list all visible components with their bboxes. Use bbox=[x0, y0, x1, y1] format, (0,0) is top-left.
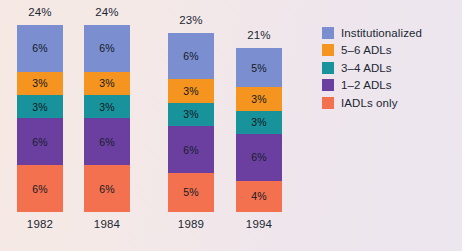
legend-item[interactable]: 1–2 ADLs bbox=[322, 77, 458, 95]
bar-segment-label: 6% bbox=[32, 42, 47, 54]
bar-segment: 3% bbox=[84, 95, 130, 118]
bar-segment-label: 6% bbox=[32, 183, 47, 195]
stacked-bar-chart: 24%6%3%3%6%6%198224%6%3%3%6%6%198423%6%3… bbox=[0, 0, 462, 251]
bar-segment: 6% bbox=[84, 118, 130, 165]
bar-segment: 3% bbox=[236, 87, 282, 110]
bar-segment-label: 6% bbox=[183, 50, 198, 62]
bar-total-label: 23% bbox=[168, 14, 214, 26]
bar-segment: 3% bbox=[17, 72, 63, 95]
legend-item-label: Institutionalized bbox=[341, 27, 422, 39]
legend-swatch-icon bbox=[322, 27, 334, 39]
bar-group-1989: 23%6%3%3%6%5%1989 bbox=[168, 0, 214, 251]
bar-group-1982: 24%6%3%3%6%6%1982 bbox=[17, 0, 63, 251]
bar-segment: 3% bbox=[168, 79, 214, 102]
bar-segment-label: 3% bbox=[183, 85, 198, 97]
bar-segment-label: 5% bbox=[251, 62, 266, 74]
chart-legend: Institutionalized5–6 ADLs3–4 ADLs1–2 ADL… bbox=[322, 24, 458, 112]
legend-item[interactable]: Institutionalized bbox=[322, 24, 458, 42]
legend-item[interactable]: 5–6 ADLs bbox=[322, 42, 458, 60]
x-axis-label-1989: 1989 bbox=[168, 218, 214, 230]
bar-segment: 5% bbox=[168, 173, 214, 212]
bar-segment-label: 6% bbox=[99, 136, 114, 148]
legend-item-label: 1–2 ADLs bbox=[341, 79, 392, 91]
bar-segment: 3% bbox=[168, 103, 214, 126]
x-axis-label-1994: 1994 bbox=[236, 218, 282, 230]
bar-segment: 6% bbox=[17, 118, 63, 165]
bar-segment-label: 3% bbox=[183, 108, 198, 120]
legend-swatch-icon bbox=[322, 44, 334, 56]
legend-item[interactable]: IADLs only bbox=[322, 94, 458, 112]
bar-total-label: 24% bbox=[17, 6, 63, 18]
bar-segment: 6% bbox=[17, 165, 63, 212]
bar-segment-label: 6% bbox=[99, 42, 114, 54]
bar-stack: 6%3%3%6%6% bbox=[17, 25, 63, 212]
bar-segment: 3% bbox=[236, 111, 282, 134]
bar-segment-label: 6% bbox=[32, 136, 47, 148]
bar-group-1984: 24%6%3%3%6%6%1984 bbox=[84, 0, 130, 251]
bar-stack: 6%3%3%6%5% bbox=[168, 33, 214, 212]
bar-stack: 5%3%3%6%4% bbox=[236, 48, 282, 212]
bar-total-label: 21% bbox=[236, 29, 282, 41]
legend-item-label: 3–4 ADLs bbox=[341, 62, 392, 74]
bar-segment-label: 3% bbox=[99, 77, 114, 89]
bar-segment: 4% bbox=[236, 181, 282, 212]
bar-segment: 6% bbox=[17, 25, 63, 72]
bar-stack: 6%3%3%6%6% bbox=[84, 25, 130, 212]
bar-group-1994: 21%5%3%3%6%4%1994 bbox=[236, 0, 282, 251]
bar-segment-label: 6% bbox=[183, 144, 198, 156]
bar-segment: 6% bbox=[168, 126, 214, 173]
bar-segment-label: 3% bbox=[251, 116, 266, 128]
bar-segment: 6% bbox=[84, 25, 130, 72]
legend-item-label: IADLs only bbox=[341, 97, 398, 109]
bar-total-label: 24% bbox=[84, 6, 130, 18]
bar-segment: 6% bbox=[168, 33, 214, 80]
bar-segment: 3% bbox=[17, 95, 63, 118]
bar-segment: 6% bbox=[236, 134, 282, 181]
bar-segment-label: 4% bbox=[251, 190, 266, 202]
x-axis-label-1984: 1984 bbox=[84, 218, 130, 230]
bar-segment-label: 3% bbox=[32, 101, 47, 113]
x-axis-label-1982: 1982 bbox=[17, 218, 63, 230]
legend-item-label: 5–6 ADLs bbox=[341, 44, 392, 56]
legend-swatch-icon bbox=[322, 97, 334, 109]
bar-segment-label: 5% bbox=[183, 186, 198, 198]
bar-segment: 3% bbox=[84, 72, 130, 95]
bar-segment: 5% bbox=[236, 48, 282, 87]
plot-area: 24%6%3%3%6%6%198224%6%3%3%6%6%198423%6%3… bbox=[0, 0, 300, 251]
bar-segment: 6% bbox=[84, 165, 130, 212]
bar-segment-label: 3% bbox=[32, 77, 47, 89]
legend-item[interactable]: 3–4 ADLs bbox=[322, 59, 458, 77]
bar-segment-label: 3% bbox=[251, 93, 266, 105]
legend-swatch-icon bbox=[322, 62, 334, 74]
bar-segment-label: 6% bbox=[251, 151, 266, 163]
legend-swatch-icon bbox=[322, 79, 334, 91]
bar-segment-label: 3% bbox=[99, 101, 114, 113]
bar-segment-label: 6% bbox=[99, 183, 114, 195]
